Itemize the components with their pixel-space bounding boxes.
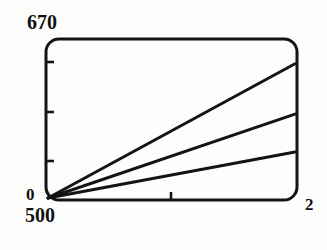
data-line-2: [48, 114, 295, 198]
data-series-group: [48, 64, 295, 198]
plot-area: [0, 0, 327, 250]
data-line-1: [48, 64, 295, 198]
data-line-3: [48, 152, 295, 198]
figure-container: ) 670 0 500 2: [0, 0, 327, 250]
